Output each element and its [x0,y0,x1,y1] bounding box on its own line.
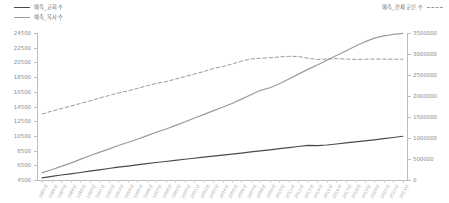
series-line [42,136,403,178]
series-line [42,56,403,114]
line-chart: 예측_교회 수 예측_목사 수 예측_전체 교인 수 2450022500205… [0,0,449,203]
series-line [42,33,403,172]
plot-area [0,0,449,203]
